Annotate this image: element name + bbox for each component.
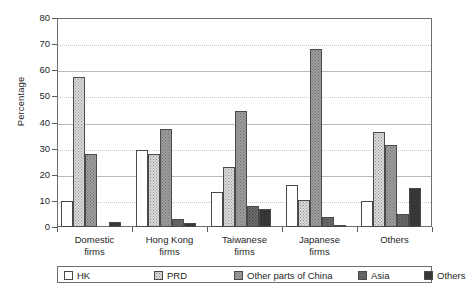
bar	[61, 201, 73, 227]
bar	[385, 145, 397, 227]
y-tick-label: 0	[0, 222, 50, 232]
legend-swatch	[64, 271, 73, 280]
bar-group	[57, 18, 132, 227]
legend-item-hk[interactable]: HK	[64, 269, 90, 282]
bar	[160, 129, 172, 227]
bar-group	[357, 18, 432, 227]
bar-group	[132, 18, 207, 227]
bar	[172, 219, 184, 227]
legend-label: PRD	[167, 271, 187, 281]
bar	[373, 132, 385, 227]
bar	[409, 188, 421, 227]
legend-label: HK	[77, 271, 90, 281]
bar	[73, 77, 85, 227]
x-tick-mark	[282, 227, 283, 232]
y-tick-label: 80	[0, 13, 50, 23]
y-tick-label: 20	[0, 170, 50, 180]
bar	[136, 150, 148, 227]
y-tick-label: 40	[0, 118, 50, 128]
bar	[223, 167, 235, 227]
bar-group	[282, 18, 357, 227]
bar	[361, 201, 373, 227]
bar	[211, 192, 223, 227]
y-tick-label: 10	[0, 196, 50, 206]
legend-swatch	[154, 271, 163, 280]
bar	[235, 111, 247, 227]
x-tick-mark	[207, 227, 208, 232]
bar-chart: Percentage 01020304050607080 Domesticfir…	[0, 0, 467, 295]
x-axis-label-line: Others	[349, 234, 441, 246]
bar	[397, 214, 409, 227]
bar	[259, 209, 271, 227]
bar	[334, 225, 346, 227]
legend-swatch	[358, 271, 367, 280]
y-tick-label: 50	[0, 91, 50, 101]
legend-item-asia[interactable]: Asia	[358, 269, 389, 282]
bar	[322, 217, 334, 227]
bar	[85, 154, 97, 227]
y-tick-label: 60	[0, 65, 50, 75]
x-tick-mark	[357, 227, 358, 232]
legend-item-prd[interactable]: PRD	[154, 269, 187, 282]
bar-group	[207, 18, 282, 227]
bar	[184, 223, 196, 227]
legend-label: Others	[437, 271, 466, 281]
bar	[310, 49, 322, 227]
legend: HKPRDOther parts of ChinaAsiaOthers	[57, 266, 432, 283]
bar	[298, 200, 310, 227]
legend-item-others[interactable]: Others	[424, 269, 466, 282]
x-tick-mark	[432, 227, 433, 232]
bar	[286, 185, 298, 227]
x-tick-mark	[57, 227, 58, 232]
x-axis-label-line: firms	[274, 246, 366, 258]
x-axis-label: Others	[349, 234, 441, 246]
legend-swatch	[424, 271, 433, 280]
legend-swatch	[234, 271, 243, 280]
bar	[247, 206, 259, 227]
legend-item-other-parts-of-china[interactable]: Other parts of China	[234, 269, 333, 282]
legend-label: Other parts of China	[247, 271, 333, 281]
legend-label: Asia	[371, 271, 389, 281]
y-tick-label: 30	[0, 144, 50, 154]
bar	[148, 154, 160, 227]
x-tick-mark	[132, 227, 133, 232]
bar-groups	[57, 18, 432, 227]
y-tick-label: 70	[0, 39, 50, 49]
bar	[109, 222, 121, 227]
